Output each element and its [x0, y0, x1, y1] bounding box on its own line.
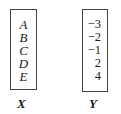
set-y-box: −3 −2 −1 2 4 [82, 9, 108, 92]
set-y-label: Y [89, 97, 97, 111]
set-x-box: A B C D E [10, 9, 37, 90]
set-x-element: E [11, 70, 36, 83]
set-x-elements: A B C D E [11, 18, 36, 83]
set-x-label: X [17, 97, 26, 111]
set-y-element: 4 [83, 70, 107, 83]
set-y-elements: −3 −2 −1 2 4 [83, 18, 107, 83]
